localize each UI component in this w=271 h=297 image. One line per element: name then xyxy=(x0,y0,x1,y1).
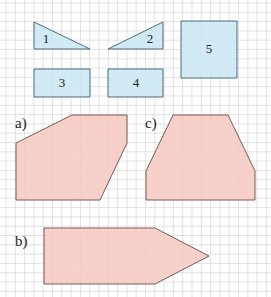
piece-label: 4 xyxy=(133,75,140,90)
piece-label: 5 xyxy=(206,41,213,56)
piece-3: 3 xyxy=(34,69,90,97)
piece-label: 1 xyxy=(43,31,50,46)
piece-2: 2 xyxy=(108,22,163,49)
piece-label: 3 xyxy=(59,75,66,90)
grid-paper-diagram: 12345 a)c)b) xyxy=(0,0,271,297)
pink-figures: a)c)b) xyxy=(15,115,255,284)
figure-label: a) xyxy=(15,115,27,132)
figure-label: b) xyxy=(15,233,28,250)
figure-a: a) xyxy=(15,115,127,200)
piece-4: 4 xyxy=(108,69,163,97)
diagram-canvas: 12345 a)c)b) xyxy=(0,0,271,297)
piece-shape xyxy=(108,22,163,49)
piece-label: 2 xyxy=(147,31,154,46)
figure-b: b) xyxy=(15,228,209,284)
figure-shape xyxy=(44,228,209,284)
piece-5: 5 xyxy=(181,21,237,78)
figure-label: c) xyxy=(145,115,157,132)
figure-shape xyxy=(16,115,127,200)
